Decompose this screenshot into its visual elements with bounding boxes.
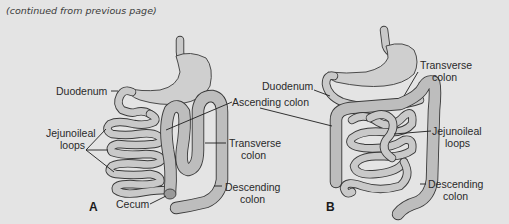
intestinal-anatomy-figure: Duodenum Jejunoileal loops Cecum Ascendi… xyxy=(0,0,509,224)
panel-a-colon xyxy=(164,96,222,208)
panel-a-label-descending-1: Descending xyxy=(225,181,281,193)
panel-b-letter: B xyxy=(326,200,335,214)
panel-a-label-cecum: Cecum xyxy=(116,198,150,210)
panel-a-label-jejunoileal-1: Jejunoileal xyxy=(46,127,96,139)
panel-b-jejunoileal-loops xyxy=(344,113,412,193)
panel-a-label-transverse-2: colon xyxy=(241,149,266,161)
panel-b-label-transverse-1: Transverse xyxy=(420,59,472,71)
panel-b-stomach xyxy=(328,44,417,87)
panel-a-label-descending-2: colon xyxy=(240,193,265,205)
panel-a-label-ascending-colon: Ascending colon xyxy=(232,96,309,108)
panel-a-label-duodenum: Duodenum xyxy=(56,85,108,97)
panel-a-label-transverse-1: Transverse xyxy=(229,137,281,149)
panel-b-label-jejunoileal-2: loops xyxy=(445,137,470,149)
panel-b-diagram: Duodenum Transverse colon Jejunoileal lo… xyxy=(260,30,484,214)
panel-b-label-descending-2: colon xyxy=(443,190,468,202)
panel-b-label-jejunoileal-1: Jejunoileal xyxy=(432,125,482,137)
panel-a-diagram: Duodenum Jejunoileal loops Cecum Ascendi… xyxy=(46,40,309,214)
panel-a-letter: A xyxy=(89,200,98,214)
panel-b-label-descending-1: Descending xyxy=(428,178,484,190)
panel-b-label-duodenum: Duodenum xyxy=(262,80,314,92)
panel-b-label-transverse-2: colon xyxy=(432,71,457,83)
panel-a-label-jejunoileal-2: loops xyxy=(60,139,85,151)
panel-a-jejunoileal-loops xyxy=(107,114,166,194)
